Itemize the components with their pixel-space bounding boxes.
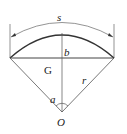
label-a: a [50,93,56,105]
label-s: s [57,11,61,23]
arrowhead-right [108,33,113,37]
segment-diagram: s b G r a O [0,0,127,134]
label-b: b [64,46,70,58]
label-g: G [44,64,52,76]
label-r: r [82,74,87,86]
label-o: O [57,116,65,128]
arrowhead-left [11,33,16,37]
radius-right [62,58,114,112]
